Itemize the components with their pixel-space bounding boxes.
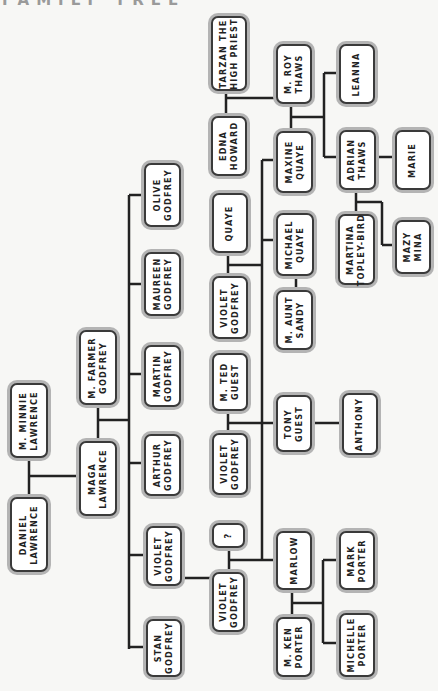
node-label: VIOLET GODFREY [153, 530, 175, 582]
node-label: MAGA LAWRENCE [87, 449, 109, 509]
node-michelle-porter: MICHELLE PORTER [339, 613, 375, 677]
node-label: MARTIN GODFREY [152, 350, 174, 402]
node-label: MARIE [408, 142, 419, 177]
node-label: M. KEN PORTER [283, 625, 305, 668]
node-roy-thaws: M. ROY THAWS [276, 44, 312, 104]
node-olive-godfrey: OLIVE GODFREY [144, 163, 181, 227]
node-maxine-quaye: MAXINE QUAYE [276, 131, 313, 193]
node-label: STAN GODFREY [153, 622, 175, 674]
node-label: QUAYE [225, 205, 236, 241]
node-label: MAXINE QUAYE [284, 140, 306, 183]
node-label: MAUREEN GODFREY [152, 257, 174, 310]
node-label: DANIEL LAWRENCE [18, 505, 40, 565]
node-violet-godfrey-2: VIOLET GODFREY [212, 572, 245, 632]
node-leanna: LEANNA [339, 44, 375, 104]
node-martin-godfrey: MARTIN GODFREY [144, 345, 181, 407]
node-michael-quaye: MICHAEL QUAYE [276, 213, 314, 276]
node-label: MICHELLE PORTER [346, 618, 368, 673]
node-violet-godfrey-4: VIOLET GODFREY [212, 276, 248, 339]
node-label: ARTHUR GODFREY [152, 439, 174, 491]
node-arthur-godfrey: ARTHUR GODFREY [144, 434, 181, 496]
node-adrian-thaws: ADRIAN THAWS [339, 130, 376, 190]
node-quaye: QUAYE [212, 193, 248, 253]
node-label: ADRIAN THAWS [347, 139, 369, 181]
node-farmer-godfrey: M. FARMER GODFREY [79, 330, 117, 405]
node-mazy-mina: MAZY MINA [395, 220, 431, 274]
node-label: MARK PORTER [346, 539, 368, 582]
node-daniel-lawrence: DANIEL LAWRENCE [10, 497, 48, 572]
node-maureen-godfrey: MAUREEN GODFREY [144, 252, 181, 316]
node-aunt-sandy: M. AUNT SANDY [276, 290, 313, 350]
node-label: MARTINA TOPLEY-BIRD [346, 213, 368, 285]
node-label: VIOLET GODFREY [218, 576, 240, 628]
node-label: VIOLET GODFREY [219, 282, 241, 334]
node-anthony: ANTHONY [342, 393, 378, 455]
node-label: VIOLET GODFREY [219, 438, 241, 490]
node-label: M. TED GUEST [219, 363, 241, 402]
node-marie: MARIE [395, 130, 431, 190]
node-label: EDNA HOWARD [218, 122, 240, 171]
node-minnie-lawrence: M. MINNIE LAWRENCE [10, 383, 48, 458]
node-label: ? [223, 533, 234, 539]
node-ted-guest: M. TED GUEST [212, 353, 248, 411]
node-label: TARZAN THE HIGH PRIEST [218, 18, 240, 89]
node-violet-godfrey-1: VIOLET GODFREY [146, 526, 182, 586]
node-martina-topley-bird: MARTINA TOPLEY-BIRD [338, 214, 375, 285]
node-tarzan-high-priest: TARZAN THE HIGH PRIEST [211, 16, 247, 91]
node-maga-lawrence: MAGA LAWRENCE [79, 441, 117, 516]
node-ken-porter: M. KEN PORTER [276, 617, 312, 677]
node-tony-guest: TONY GUEST [276, 395, 312, 452]
node-label: MAZY MINA [402, 232, 424, 263]
node-stan-godfrey: STAN GODFREY [146, 619, 182, 677]
node-label: M. AUNT SANDY [284, 296, 306, 343]
node-mark-porter: MARK PORTER [339, 531, 375, 590]
node-marlow: MARLOW [276, 531, 312, 590]
node-unknown: ? [212, 523, 245, 548]
node-label: MARLOW [289, 536, 300, 584]
node-label: M. ROY THAWS [283, 54, 305, 94]
node-label: OLIVE GODFREY [152, 169, 174, 221]
node-label: M. FARMER GODFREY [87, 337, 109, 399]
node-edna-howard: EDNA HOWARD [211, 116, 247, 176]
node-label: LEANNA [352, 52, 363, 96]
node-label: TONY GUEST [283, 405, 305, 441]
node-label: ANTHONY [355, 397, 366, 450]
node-label: M. MINNIE LAWRENCE [18, 391, 40, 451]
node-label: MICHAEL QUAYE [284, 220, 306, 269]
node-violet-godfrey-3: VIOLET GODFREY [212, 433, 248, 495]
